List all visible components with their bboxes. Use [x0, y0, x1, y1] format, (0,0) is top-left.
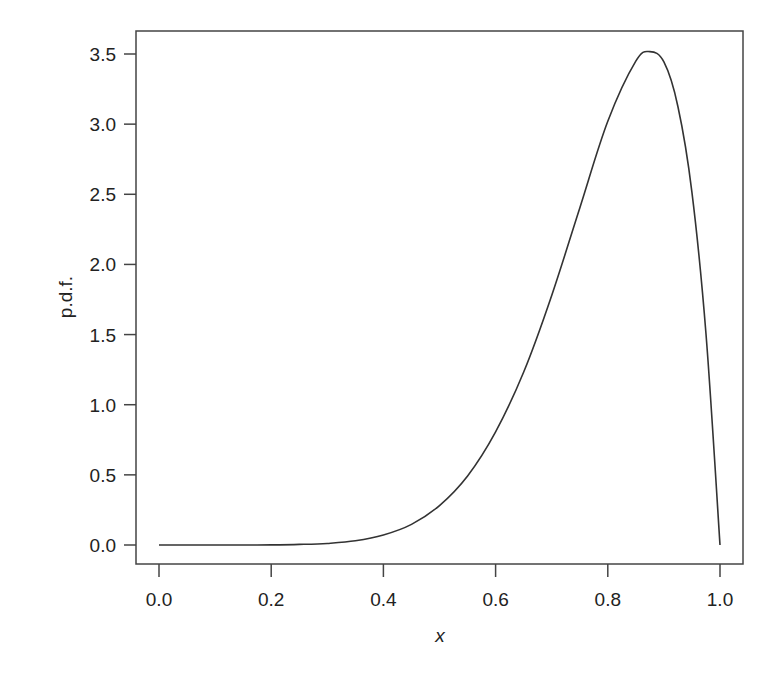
y-tick-label: 1.0 — [90, 395, 116, 416]
y-axis-title: p.d.f. — [55, 276, 76, 318]
x-axis: 0.00.20.40.60.81.0 — [146, 564, 733, 610]
plot-frame — [136, 31, 743, 564]
pdf-curve — [159, 51, 720, 545]
y-tick-label: 0.5 — [90, 465, 116, 486]
y-tick-label: 3.0 — [90, 114, 116, 135]
x-tick-label: 0.4 — [370, 589, 397, 610]
y-tick-label: 1.5 — [90, 325, 116, 346]
y-tick-label: 0.0 — [90, 535, 116, 556]
x-tick-label: 1.0 — [707, 589, 733, 610]
x-axis-title: x — [434, 625, 446, 646]
x-tick-label: 0.8 — [595, 589, 621, 610]
y-tick-label: 2.5 — [90, 184, 116, 205]
x-tick-label: 0.6 — [482, 589, 508, 610]
y-tick-label: 2.0 — [90, 254, 116, 275]
x-tick-label: 0.2 — [258, 589, 284, 610]
pdf-chart: 0.00.51.01.52.02.53.03.5 0.00.20.40.60.8… — [0, 0, 784, 673]
y-tick-label: 3.5 — [90, 44, 116, 65]
x-tick-label: 0.0 — [146, 589, 172, 610]
y-axis: 0.00.51.01.52.02.53.03.5 — [90, 44, 136, 556]
